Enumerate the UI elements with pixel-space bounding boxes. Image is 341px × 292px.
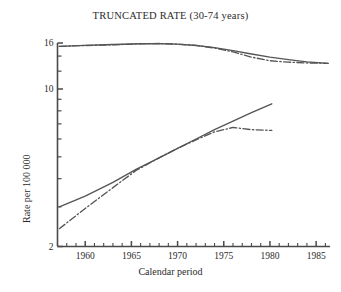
x-tick-label: 1970 <box>168 251 187 261</box>
series-line-upper-observed <box>59 43 328 63</box>
x-tick-label: 1980 <box>260 251 279 261</box>
series-line-lower-observed <box>59 127 271 228</box>
y-tick-label: 10 <box>44 84 54 94</box>
y-tick-label: 16 <box>44 38 54 48</box>
y-axis-tick-labels: 16102 <box>44 38 54 252</box>
y-axis-ticks <box>58 43 64 247</box>
x-tick-label: 1975 <box>214 251 233 261</box>
x-axis-tick-labels: 196019651970197519801985 <box>76 251 326 261</box>
chart-figure: TRUNCATED RATE (30-74 years) Rate per 10… <box>0 0 341 292</box>
series-line-lower-fitted <box>59 104 271 207</box>
plot-area: 16102 196019651970197519801985 <box>0 0 341 292</box>
y-tick-label: 2 <box>49 242 54 252</box>
x-tick-label: 1960 <box>76 251 95 261</box>
axis-lines <box>58 43 331 247</box>
x-tick-label: 1985 <box>307 251 326 261</box>
series-line-upper-fitted <box>59 44 328 64</box>
data-series-group <box>59 43 328 228</box>
x-tick-label: 1965 <box>122 251 141 261</box>
x-axis-ticks <box>58 241 326 247</box>
